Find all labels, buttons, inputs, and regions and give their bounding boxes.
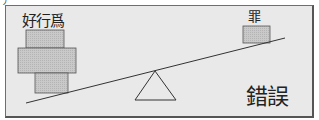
sin-label: 罪 <box>248 10 261 23</box>
good-deeds-top-block <box>26 30 64 48</box>
good-deeds-bottom-block <box>35 73 68 93</box>
good-deeds-middle-block <box>18 48 76 73</box>
fulcrum-triangle-icon <box>135 71 176 100</box>
good-deeds-stack <box>18 30 76 93</box>
good-deeds-label: 好行爲 <box>22 14 64 29</box>
sin-block <box>243 26 270 43</box>
verdict-label: 錯誤 <box>246 86 288 108</box>
